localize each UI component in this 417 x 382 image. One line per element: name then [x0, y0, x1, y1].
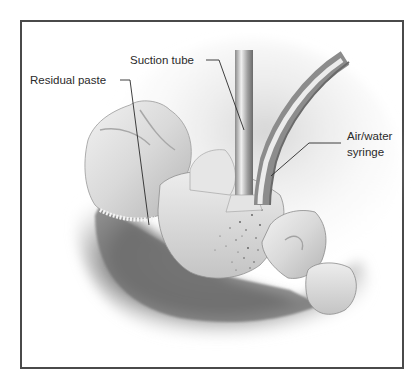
suction-tube — [235, 50, 253, 198]
dental-illustration — [0, 0, 417, 382]
premolar-right-2 — [306, 263, 357, 314]
label-residual-paste: Residual paste — [30, 72, 106, 88]
label-air-water-line1: Air/water — [347, 128, 392, 144]
label-air-water-syringe: Air/water syringe — [347, 128, 392, 160]
label-air-water-line2: syringe — [347, 144, 392, 160]
label-suction-tube: Suction tube — [130, 52, 194, 68]
